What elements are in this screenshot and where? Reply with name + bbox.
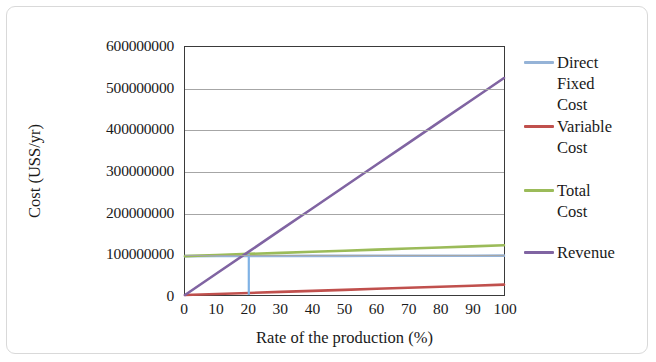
- gridline: [185, 214, 504, 215]
- legend-label: Revenue: [557, 242, 615, 263]
- x-axis-tick-label: 70: [401, 300, 417, 318]
- legend-label: VariableCost: [557, 116, 612, 158]
- series-lines: [185, 47, 504, 295]
- legend-swatch-icon: [524, 189, 554, 192]
- x-axis-tick-label: 50: [337, 300, 353, 318]
- y-axis-tick-label: 600000000: [106, 37, 174, 55]
- x-axis-title: Rate of the production (%): [184, 328, 505, 348]
- legend-entry-variable-cost[interactable]: VariableCost: [524, 116, 612, 158]
- legend-swatch-icon: [524, 251, 554, 254]
- legend-entry-direct-fixed-cost[interactable]: DirectFixedCost: [524, 52, 598, 115]
- y-axis-tick-label: 100000000: [106, 245, 174, 263]
- y-axis-tick-label: 200000000: [106, 204, 174, 222]
- x-axis-tick-label: 100: [493, 300, 516, 318]
- x-axis-tick-label: 10: [208, 300, 224, 318]
- x-axis-tick-label: 20: [240, 300, 256, 318]
- x-axis-tick-label: 80: [433, 300, 449, 318]
- legend-label: DirectFixedCost: [557, 52, 598, 115]
- legend-label: TotalCost: [557, 180, 591, 222]
- x-axis-tick-label: 40: [305, 300, 321, 318]
- gridline: [185, 172, 504, 173]
- x-axis-tick-label: 60: [369, 300, 385, 318]
- gridline: [185, 255, 504, 256]
- y-axis-tick-label: 300000000: [106, 162, 174, 180]
- y-axis-tick-labels: 0100000000200000000300000000400000000500…: [60, 46, 180, 296]
- legend-swatch-icon: [524, 61, 554, 64]
- y-axis-tick-label: 0: [166, 287, 174, 305]
- legend-entry-total-cost[interactable]: TotalCost: [524, 180, 591, 222]
- x-axis-tick-label: 90: [465, 300, 481, 318]
- y-axis-tick-label: 500000000: [106, 79, 174, 97]
- plot-area: [184, 46, 505, 296]
- series-line-variable-cost: [185, 285, 504, 295]
- legend-swatch-icon: [524, 125, 554, 128]
- x-axis-tick-labels: 0102030405060708090100: [184, 300, 505, 324]
- x-axis-tick-label: 30: [273, 300, 289, 318]
- legend-entry-revenue[interactable]: Revenue: [524, 242, 615, 263]
- chart-figure: Cost (USS/yr) 01000000002000000003000000…: [0, 0, 656, 362]
- series-line-revenue: [185, 78, 504, 295]
- x-axis-tick-label: 0: [180, 300, 188, 318]
- y-axis-tick-label: 400000000: [106, 120, 174, 138]
- gridline: [185, 130, 504, 131]
- gridline: [185, 89, 504, 90]
